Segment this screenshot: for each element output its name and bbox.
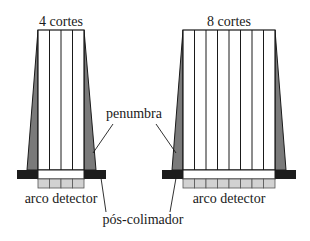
post-collimator-label: pós-colimador — [103, 212, 184, 227]
penumbra-leader-left — [93, 124, 113, 153]
penumbra-callout: penumbra — [93, 106, 176, 153]
detector-cell — [229, 179, 241, 188]
left-penumbra-wedge-left — [27, 30, 38, 170]
right-post-collimator-right — [275, 170, 296, 179]
penumbra-label: penumbra — [106, 106, 163, 121]
detector-cell — [61, 179, 73, 188]
right-beam-8-slices: 8 cortes arco detector — [162, 14, 296, 206]
right-title: 8 cortes — [207, 14, 251, 29]
right-detector-label: arco detector — [193, 191, 266, 206]
right-detector-arc — [183, 179, 275, 188]
detector-cell — [264, 179, 276, 188]
detector-cell — [195, 179, 207, 188]
left-post-collimator-right — [84, 170, 106, 179]
left-title: 4 cortes — [39, 14, 83, 29]
post-collimator-leader-left — [101, 178, 106, 212]
left-detector-arc — [38, 179, 84, 188]
detector-cell — [50, 179, 62, 188]
detector-cell — [218, 179, 230, 188]
right-post-collimator-left — [162, 170, 183, 179]
left-penumbra-wedge-right — [84, 30, 96, 170]
right-collimator-aperture — [183, 170, 275, 179]
left-post-collimator-left — [17, 170, 38, 179]
post-collimator-leader-right — [170, 178, 176, 212]
detector-cell — [206, 179, 218, 188]
post-collimator-callout: pós-colimador — [101, 178, 184, 227]
detector-cell — [252, 179, 264, 188]
detector-cell — [73, 179, 85, 188]
right-penumbra-wedge-right — [275, 30, 286, 170]
ct-slices-diagram: 4 cortes arco detector 8 cortes arco det… — [0, 0, 310, 241]
left-beam-4-slices: 4 cortes arco detector — [17, 14, 106, 206]
left-collimator-aperture — [38, 170, 84, 179]
detector-cell — [38, 179, 50, 188]
penumbra-leader-right — [156, 124, 176, 153]
detector-cell — [183, 179, 195, 188]
left-detector-label: arco detector — [25, 191, 98, 206]
detector-cell — [241, 179, 253, 188]
